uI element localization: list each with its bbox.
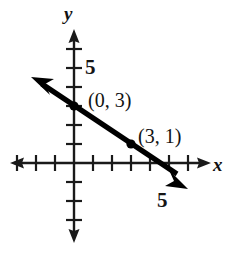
point-marker-3-1: [126, 139, 135, 148]
x-axis-arrow-right: [197, 158, 211, 169]
point-label-second-point: (3, 1): [138, 126, 181, 146]
graph-svg: [0, 0, 237, 263]
y-axis-tick-label-5: 5: [85, 57, 96, 78]
x-axis-tick-label-5: 5: [157, 190, 168, 211]
point-label-y-intercept: (0, 3): [88, 90, 131, 110]
coordinate-plane-figure: y x 5 5 (0, 3) (3, 1): [0, 0, 237, 263]
y-axis-arrow-down: [69, 229, 80, 243]
y-axis-label: y: [64, 4, 72, 23]
point-marker-0-3: [69, 101, 78, 110]
x-axis-label: x: [213, 155, 223, 174]
y-axis-arrow-up: [69, 29, 80, 43]
